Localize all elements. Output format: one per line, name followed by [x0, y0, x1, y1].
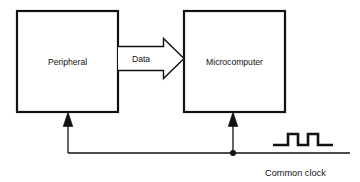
diagram-svg: Peripheral Microcomputer Data Common clo…: [0, 0, 360, 182]
block-microcomputer: Microcomputer: [184, 11, 285, 112]
block-diagram-canvas: Peripheral Microcomputer Data Common clo…: [0, 0, 360, 182]
microcomputer-label: Microcomputer: [206, 57, 263, 67]
data-arrow-label: Data: [132, 54, 150, 64]
common-clock-label: Common clock: [265, 168, 326, 178]
peripheral-label: Peripheral: [48, 57, 87, 67]
clock-junction-dot-icon: [230, 150, 236, 156]
block-peripheral: Peripheral: [17, 11, 118, 112]
